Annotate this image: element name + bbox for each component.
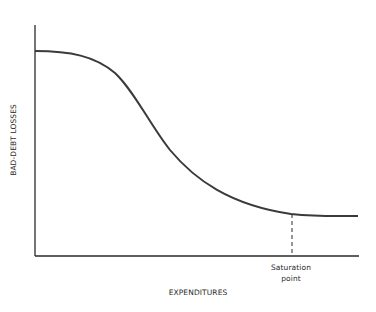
chart-canvas	[0, 0, 376, 312]
saturation-label-line1: Saturation	[271, 262, 311, 273]
bad-debt-curve	[35, 51, 358, 216]
saturation-point-label: Saturation point	[271, 262, 311, 284]
x-axis-label: EXPENDITURES	[169, 288, 228, 297]
y-axis-label: BAD-DEBT LOSSES	[9, 104, 18, 176]
saturation-label-line2: point	[271, 273, 311, 284]
